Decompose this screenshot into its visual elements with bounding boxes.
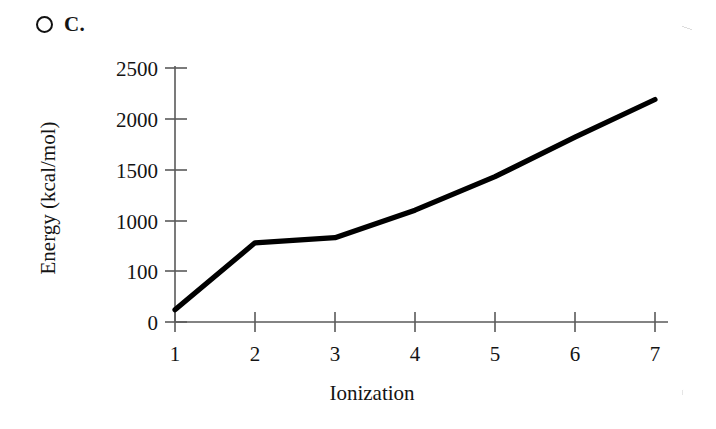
x-tick-label: 7	[650, 342, 661, 366]
chart-canvas: 2500 2000 1500 1000 100 0 1 2 3 4 5 6 7	[0, 0, 716, 429]
x-tick-label: 2	[250, 342, 261, 366]
y-tick-label: 1000	[116, 210, 158, 234]
y-axis-tick-labels: 2500 2000 1500 1000 100 0	[116, 57, 158, 335]
line-chart-figure: 2500 2000 1500 1000 100 0 1 2 3 4 5 6 7	[0, 0, 716, 429]
scan-artifact	[679, 389, 686, 395]
y-tick-label: 0	[148, 311, 159, 335]
x-axis-title: Ionization	[329, 381, 415, 405]
data-series-line	[175, 100, 655, 310]
x-tick-label: 6	[570, 342, 581, 366]
x-tick-label: 3	[330, 342, 341, 366]
y-tick-label: 2000	[116, 108, 158, 132]
scan-artifact	[682, 24, 692, 32]
x-tick-label: 4	[410, 342, 421, 366]
y-axis-ticks	[165, 68, 187, 322]
y-tick-label: 1500	[116, 159, 158, 183]
y-tick-label: 2500	[116, 57, 158, 81]
x-tick-label: 1	[170, 342, 181, 366]
x-tick-label: 5	[490, 342, 501, 366]
x-axis-tick-labels: 1 2 3 4 5 6 7	[170, 342, 661, 366]
y-tick-label: 100	[127, 260, 159, 284]
y-axis-title: Energy (kcal/mol)	[36, 122, 60, 275]
